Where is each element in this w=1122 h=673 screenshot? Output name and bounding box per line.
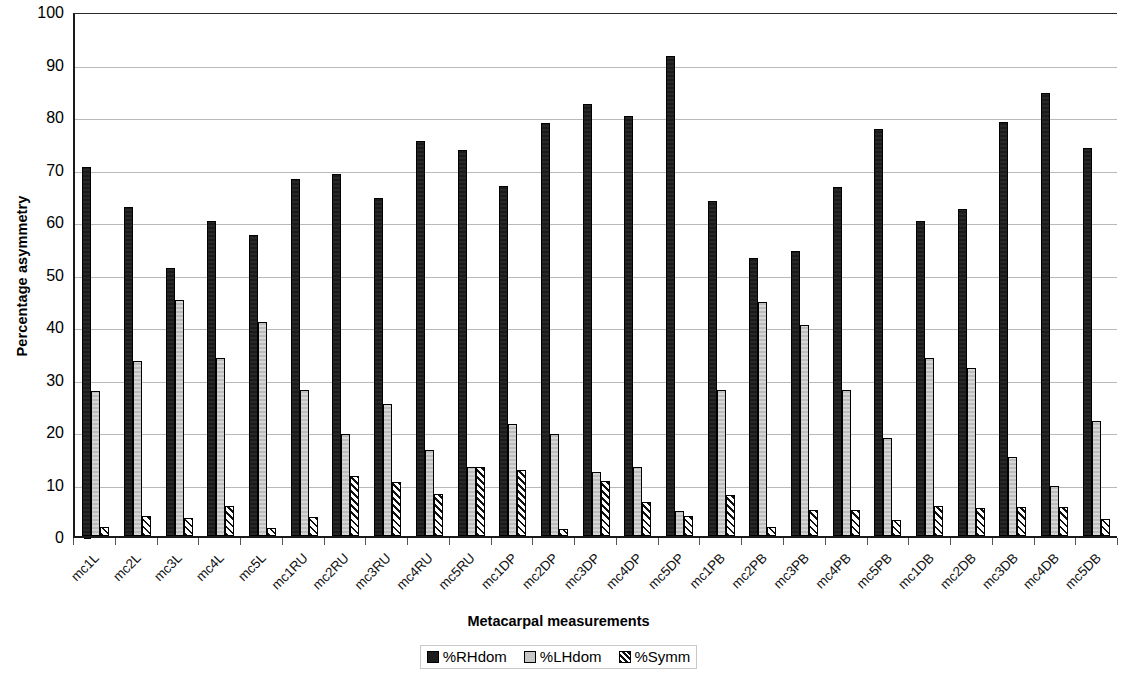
y-axis-tick-label: 100 — [18, 5, 64, 21]
bar — [592, 472, 601, 536]
bar — [1092, 421, 1101, 536]
bar — [833, 187, 842, 536]
bar — [175, 300, 184, 536]
y-axis-tick-label: 80 — [18, 110, 64, 126]
x-axis-tick-label-text: mc2L — [110, 551, 143, 584]
bar-group — [117, 14, 159, 536]
x-axis-tick-label-text: mc4L — [194, 551, 227, 584]
bar — [666, 56, 675, 536]
bar — [458, 150, 467, 536]
bar — [91, 391, 100, 536]
bar — [82, 167, 91, 536]
bar — [717, 390, 726, 536]
bar — [1083, 148, 1092, 537]
bar — [791, 251, 800, 536]
x-axis-title: Metacarpal measurements — [0, 613, 1117, 629]
legend-label: %RHdom — [443, 648, 507, 665]
y-axis-tick-label: 0 — [18, 530, 64, 546]
bar-group — [450, 14, 492, 536]
bar — [883, 438, 892, 536]
bar-group — [200, 14, 242, 536]
x-axis-label-cell: mc4L — [198, 547, 240, 609]
x-axis-label-cell: mc3L — [157, 547, 199, 609]
bar — [499, 186, 508, 536]
bar — [583, 104, 592, 536]
bar-group — [75, 14, 117, 536]
bar — [1059, 507, 1068, 536]
bar — [684, 516, 693, 536]
bar — [916, 221, 925, 536]
bar-group — [325, 14, 367, 536]
bar-group — [992, 14, 1034, 536]
bar-group — [1034, 14, 1076, 536]
legend-swatch-icon — [619, 651, 631, 663]
x-axis-labels: mc1Lmc2Lmc3Lmc4Lmc5Lmc1RUmc2RUmc3RUmc4RU… — [73, 547, 1117, 609]
bar-group — [659, 14, 701, 536]
plot-area — [73, 13, 1117, 538]
bar — [642, 502, 651, 536]
bar-group — [617, 14, 659, 536]
bar-group — [158, 14, 200, 536]
bar — [374, 198, 383, 536]
bar — [332, 174, 341, 536]
y-axis-labels: 0102030405060708090100 — [18, 0, 64, 560]
y-axis-tick-label: 40 — [18, 320, 64, 336]
bar — [309, 517, 318, 536]
bar — [976, 508, 985, 536]
bar-group — [950, 14, 992, 536]
bar-group — [492, 14, 534, 536]
bar-group — [1076, 14, 1118, 536]
bar-group — [283, 14, 325, 536]
y-axis-tick-label: 10 — [18, 478, 64, 494]
y-axis-tick-label: 90 — [18, 58, 64, 74]
bar — [1008, 457, 1017, 536]
bar — [476, 467, 485, 536]
bar — [216, 358, 225, 537]
bar — [341, 434, 350, 536]
x-axis-label-cell: mc2L — [115, 547, 157, 609]
bar — [225, 506, 234, 536]
y-axis-tick-label: 70 — [18, 163, 64, 179]
bar — [800, 325, 809, 536]
legend-item[interactable]: %RHdom — [427, 648, 507, 665]
legend-item[interactable]: %Symm — [619, 648, 691, 665]
bar — [958, 209, 967, 536]
bar — [809, 510, 818, 536]
bar — [892, 520, 901, 536]
bar — [249, 235, 258, 536]
bar — [925, 358, 934, 537]
bar — [851, 510, 860, 536]
bar — [749, 258, 758, 536]
bar — [967, 368, 976, 536]
bar — [624, 116, 633, 536]
legend-item[interactable]: %LHdom — [524, 648, 602, 665]
y-axis-tick-label: 60 — [18, 215, 64, 231]
bar — [726, 495, 735, 536]
bar — [758, 302, 767, 536]
bar — [601, 481, 610, 536]
bar — [508, 424, 517, 536]
bar-group — [742, 14, 784, 536]
bar — [124, 207, 133, 536]
bar — [383, 404, 392, 536]
bar-group — [367, 14, 409, 536]
bar — [300, 390, 309, 536]
bar — [416, 141, 425, 536]
legend-swatch-icon — [524, 651, 536, 663]
x-axis-tick-label-text: mc3L — [152, 551, 185, 584]
x-axis-tick-label-text: mc5L — [236, 551, 269, 584]
bar — [425, 450, 434, 536]
x-axis-label-cell: mc5DB — [1075, 547, 1117, 609]
bar-group — [825, 14, 867, 536]
bar-group — [867, 14, 909, 536]
bar — [467, 467, 476, 536]
y-axis-tick-label: 20 — [18, 425, 64, 441]
bars-layer — [75, 14, 1117, 536]
bar-group — [784, 14, 826, 536]
bar-group — [534, 14, 576, 536]
bar — [207, 221, 216, 536]
bar — [133, 361, 142, 536]
bar — [675, 511, 684, 536]
legend-label: %LHdom — [540, 648, 602, 665]
legend: %RHdom%LHdom%Symm — [0, 645, 1117, 669]
